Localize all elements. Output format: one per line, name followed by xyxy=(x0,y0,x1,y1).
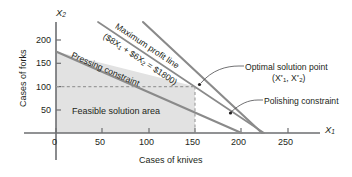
y-axis-symbol-subscript: 2 xyxy=(62,11,66,18)
optimal-solution-point-coords: (X*1, X*2) xyxy=(272,73,305,83)
plot-canvas xyxy=(0,0,352,177)
feasible-solution-area-label: Feasible solution area xyxy=(72,106,160,116)
x-axis-title: Cases of knives xyxy=(139,155,203,165)
y-axis-title: Cases of forks xyxy=(18,49,28,107)
optimal-solution-point-label: Optimal solution point xyxy=(245,62,328,72)
polishing-constraint-leader-dot xyxy=(229,111,232,114)
polishing-constraint-label: Polishing constraint xyxy=(264,96,339,106)
x-tick-label-150: 150 xyxy=(185,137,200,147)
optimal-close-paren: ) xyxy=(303,73,306,83)
y-axis-symbol: X2 xyxy=(56,7,66,18)
x-tick-label-0: 0 xyxy=(52,137,57,147)
y-tick-label-150: 150 xyxy=(36,58,51,68)
y-tick-label-100: 100 xyxy=(36,82,51,92)
optimal-point-leader xyxy=(201,66,244,83)
optimal-point-leader-dot xyxy=(198,83,201,86)
x-tick-label-250: 250 xyxy=(278,137,293,147)
y-tick-label-200: 200 xyxy=(36,35,51,45)
x-axis-symbol-subscript: 1 xyxy=(331,128,335,135)
x-tick-label-50: 50 xyxy=(95,137,105,147)
linear-programming-graph: 0 50 100 150 200 250 50 100 150 200 X2 X… xyxy=(0,0,352,177)
x-tick-label-200: 200 xyxy=(231,137,246,147)
y-tick-label-50: 50 xyxy=(41,105,51,115)
polishing-constraint-leader xyxy=(231,100,263,112)
x-axis-symbol: X1 xyxy=(325,124,335,135)
x-tick-label-100: 100 xyxy=(139,137,154,147)
